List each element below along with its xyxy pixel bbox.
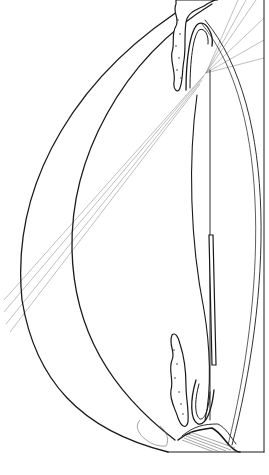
light-ray <box>6 80 202 324</box>
stipple-dot <box>176 69 178 71</box>
stipple-dot <box>173 349 175 351</box>
light-ray <box>10 84 200 332</box>
stipple-dot <box>182 413 184 415</box>
oblique-light-rays <box>4 73 206 332</box>
upper-light-fan <box>206 0 264 73</box>
stipple-dot <box>176 363 178 365</box>
stipple-dot <box>174 377 176 379</box>
light-ray <box>206 40 264 73</box>
stipple-dot <box>180 403 182 405</box>
light-ray <box>4 73 206 300</box>
stipple-dot <box>177 19 179 21</box>
stipple-dot <box>178 57 180 59</box>
light-ray <box>206 18 264 73</box>
lower-iris <box>171 334 189 426</box>
trabecular-loop <box>137 420 167 446</box>
stipple-dot <box>175 45 177 47</box>
lens-anterior-surface <box>192 95 210 420</box>
angle-tissue-layer <box>182 424 236 444</box>
stipple-dot <box>178 391 180 393</box>
stipple-dot <box>179 33 181 35</box>
stipple-dot <box>180 77 182 79</box>
lens-posterior-capsule <box>205 20 261 445</box>
cornea-outer-surface <box>21 0 196 452</box>
light-ray <box>206 0 238 73</box>
upper-iris <box>172 0 218 91</box>
eye-anatomy-diagram <box>0 0 269 475</box>
upper-ciliary-fold-inner <box>190 29 208 88</box>
angle-fiber <box>184 438 220 452</box>
light-ray <box>4 76 204 312</box>
